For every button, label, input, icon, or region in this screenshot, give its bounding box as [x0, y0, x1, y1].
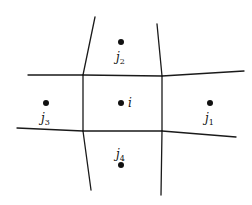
- node-j1-dot: [207, 100, 213, 106]
- upper-mid-edge: [83, 75, 162, 76]
- bottom-left-edge: [83, 131, 91, 190]
- top-right-edge: [157, 24, 162, 76]
- top-left-edge: [83, 17, 95, 75]
- stencil-diagram: ij1j2j3j4: [0, 0, 252, 205]
- node-j2-label: j2: [113, 50, 125, 66]
- node-j4-label: j4: [113, 147, 125, 163]
- node-i-dot: [118, 100, 124, 106]
- bottom-right-edge: [161, 131, 162, 195]
- upper-right-edge: [162, 71, 244, 76]
- node-j1-label: j1: [202, 111, 214, 127]
- node-j2-dot: [118, 39, 124, 45]
- cell-centers: ij1j2j3j4: [38, 39, 214, 168]
- lower-right-edge: [162, 131, 236, 137]
- node-j3-dot: [43, 100, 49, 106]
- lower-left-edge: [17, 128, 83, 131]
- node-j3-label: j3: [38, 111, 50, 127]
- node-i-label: i: [128, 96, 132, 110]
